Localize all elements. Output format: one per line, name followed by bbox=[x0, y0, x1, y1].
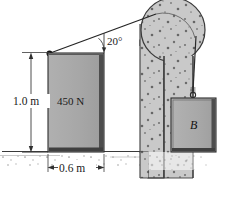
hanging-block-label: B bbox=[190, 118, 198, 132]
main-block-weight-label: 450 N bbox=[57, 95, 84, 107]
height-dimension-group: 1.0 m bbox=[12, 53, 50, 153]
figure-canvas: 20° 450 N 1.0 m bbox=[0, 0, 227, 197]
main-block-right-shadow bbox=[99, 54, 104, 151]
width-dimension-label: 0.6 m bbox=[59, 162, 85, 174]
statics-figure: 20° 450 N 1.0 m bbox=[0, 0, 227, 197]
hanging-block-right-shadow bbox=[212, 99, 216, 151]
angle-arrowhead bbox=[102, 47, 106, 52]
concrete-footing bbox=[140, 152, 148, 178]
angle-label: 20° bbox=[107, 35, 122, 47]
main-block-group: 450 N bbox=[48, 53, 104, 152]
hanging-block-bottom-shadow bbox=[172, 148, 215, 151]
main-block-bottom-shadow bbox=[49, 148, 103, 152]
soil-spill bbox=[148, 152, 208, 170]
height-arrow-top bbox=[29, 53, 33, 60]
angle-annotation: 20° bbox=[99, 33, 123, 53]
height-dimension-label: 1.0 m bbox=[13, 95, 39, 107]
